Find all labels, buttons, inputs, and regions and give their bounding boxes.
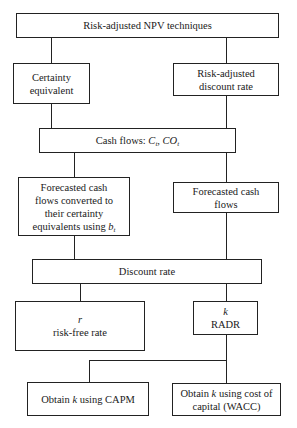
node-cash-flows-label: Cash flows: Ct, COt [96,134,179,147]
connector-certainty-cashflows [51,103,52,128]
risk-free-symbol: r [78,313,82,326]
forecast-flows-line2: flows [214,198,237,211]
connector-radr-method-cashflows [226,95,227,128]
node-certainty-line2: equivalent [30,84,74,97]
forecast-converted-sub: t [114,226,116,234]
node-forecast-flows: Forecasted cash flows [173,182,279,213]
discount-rate-label: Discount rate [119,265,175,278]
capm-prefix: Obtain [41,394,72,405]
connector-branch-capm [89,360,90,382]
connector-discount-riskfree [80,283,81,301]
wacc-line1: Obtain k using cost of [180,387,272,400]
forecast-converted-line1: Forecasted cash [41,181,108,194]
connector-radr-branch [89,360,227,361]
node-radr-method: Risk-adjusted discount rate [173,63,279,96]
connector-forecast-converted-discount [74,235,75,259]
node-radr: k RADR [193,301,258,335]
node-root-label: Risk-adjusted NPV techniques [83,19,212,32]
forecast-converted-line4-prefix: equivalents using [32,221,108,232]
cash-flows-var2: CO [163,135,178,146]
node-forecast-converted: Forecasted cash flows converted to their… [18,177,130,236]
connector-cashflows-forecast-flows [226,152,227,182]
connector-discount-radr [226,283,227,301]
node-certainty-equivalent: Certainty equivalent [13,63,90,104]
wacc-suffix: using cost of [216,388,272,399]
node-wacc: Obtain k using cost of capital (WACC) [172,383,281,416]
forecast-converted-line3: their certainty [45,207,104,220]
node-cash-flows: Cash flows: Ct, COt [39,128,236,153]
node-root: Risk-adjusted NPV techniques [16,13,279,38]
connector-forecast-flows-discount [226,212,227,259]
forecast-flows-line1: Forecasted cash [193,185,260,198]
wacc-prefix: Obtain [180,388,211,399]
connector-root-radr-method [226,37,227,63]
radr-symbol: k [223,305,228,318]
cash-flows-sub2: t [177,140,179,148]
node-capm: Obtain k using CAPM [27,382,149,416]
node-certainty-line1: Certainty [32,71,71,84]
capm-suffix: using CAPM [77,394,135,405]
wacc-line2: capital (WACC) [193,400,261,413]
forecast-converted-line2: flows converted to [35,194,113,207]
connector-radr-down [226,334,227,383]
radr-label: RADR [211,318,240,331]
node-risk-free: r risk-free rate [15,301,145,351]
node-radr-method-line2: discount rate [199,80,253,93]
connector-cashflows-forecast-converted [74,152,75,177]
capm-label: Obtain k using CAPM [41,393,135,406]
node-discount-rate: Discount rate [32,259,262,284]
connector-root-certainty [51,37,52,63]
cash-flows-prefix: Cash flows: [96,135,149,146]
forecast-converted-line4: equivalents using bt [32,220,115,233]
risk-free-label: risk-free rate [53,326,107,339]
node-radr-method-line1: Risk-adjusted [197,67,255,80]
